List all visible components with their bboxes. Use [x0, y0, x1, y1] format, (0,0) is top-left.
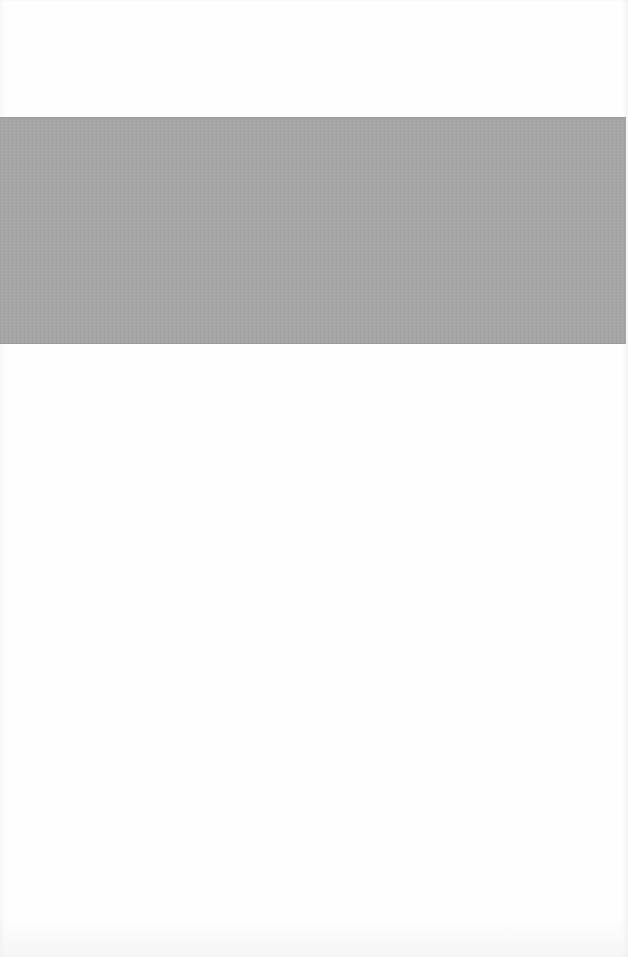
- gray-image-placeholder: [0, 117, 626, 344]
- document-page: [0, 0, 628, 957]
- scan-bleed-through: [0, 917, 628, 957]
